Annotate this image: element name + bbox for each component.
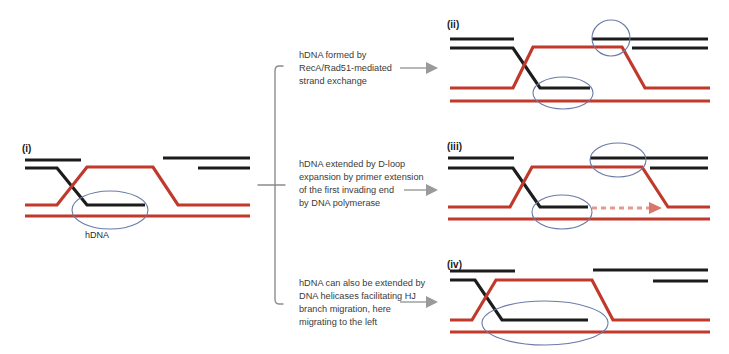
panel-ii-red-loop — [450, 47, 710, 88]
step-iv-line-3: branch migration, here — [299, 304, 391, 314]
recombination-diagram-figure: (i) hDNA hDNA form — [0, 0, 729, 354]
step-iv-line-2: DNA helicases facilitating HJ — [299, 291, 416, 301]
panel-label-ii: (ii) — [447, 19, 459, 30]
step-ii-line-2: RecA/Rad51-mediated — [299, 63, 392, 73]
step-iii-line-1: hDNA extended by D-loop — [299, 159, 405, 169]
panel-label-iv: (iv) — [447, 259, 462, 270]
panel-iv: (iv) — [447, 259, 710, 345]
step-iii-line-2: expansion by primer extension — [299, 172, 424, 182]
panel-iii-red-loop — [448, 167, 710, 207]
step-iii-arrow-head — [426, 184, 438, 196]
panel-ii-hdna-ellipse-lower — [533, 77, 593, 109]
hdna-label: hDNA — [85, 230, 109, 240]
branch-connector — [258, 66, 285, 304]
step-iii-line-3: of the first invading end — [299, 185, 394, 195]
step-ii-line-1: hDNA formed by — [299, 50, 367, 60]
primer-extension-arrow-head — [649, 202, 662, 214]
black-strand-invading — [25, 168, 145, 205]
step-iv-line-4: migrating to the left — [299, 317, 378, 327]
hdna-highlight-ellipse — [72, 191, 148, 229]
panel-initial: (i) hDNA — [22, 143, 250, 240]
step-iv-arrow-head — [426, 296, 438, 308]
panel-iii-hdna-ellipse-upper — [590, 143, 646, 177]
red-strand-displaced-loop — [25, 167, 250, 205]
diagram-canvas: (i) hDNA hDNA form — [0, 0, 729, 354]
panel-iii-black-invading — [448, 168, 588, 207]
step-ii-group: hDNA formed by RecA/Rad51-mediated stran… — [299, 50, 438, 86]
step-iii-line-4: by DNA polymerase — [299, 198, 380, 208]
panel-label-iii: (iii) — [447, 141, 462, 152]
panel-iv-black-invading — [450, 280, 588, 320]
step-iv-group: hDNA can also be extended by DNA helicas… — [299, 278, 438, 327]
step-ii-line-3: strand exchange — [299, 76, 367, 86]
step-iii-group: hDNA extended by D-loop expansion by pri… — [299, 159, 438, 208]
panel-iv-hdna-ellipse-extended — [482, 301, 608, 345]
panel-label-i: (i) — [22, 143, 31, 154]
panel-ii: (ii) — [447, 19, 710, 109]
panel-iii: (iii) — [447, 141, 710, 229]
panel-iii-hdna-ellipse-lower — [532, 195, 592, 229]
step-iv-line-1: hDNA can also be extended by — [299, 278, 426, 288]
step-ii-arrow-head — [426, 62, 438, 74]
panel-ii-black-invading — [450, 48, 590, 88]
